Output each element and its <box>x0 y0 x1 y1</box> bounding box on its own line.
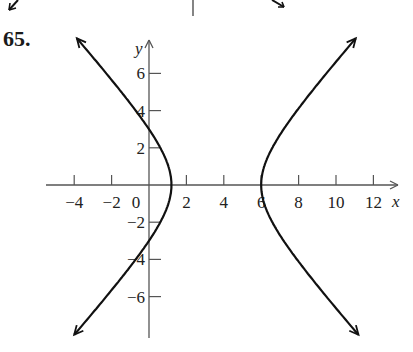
x-tick-label: −4 <box>65 193 84 212</box>
y-axis-label: y <box>133 39 143 58</box>
axes: xy <box>46 39 400 338</box>
x-tick-label: 8 <box>294 193 303 212</box>
x-tick-label: 12 <box>365 193 382 212</box>
x-tick-label: −2 <box>103 193 121 212</box>
left-branch <box>74 38 171 335</box>
x-tick-label: 0 <box>132 193 141 212</box>
right-branch <box>261 38 358 335</box>
y-tick-label: −2 <box>127 213 145 232</box>
x-tick-label: 4 <box>220 193 229 212</box>
hyperbola-plot: xy −4−2024681012−6−4−2246 <box>0 0 413 352</box>
x-axis-label: x <box>391 192 400 211</box>
y-tick-label: 2 <box>137 139 146 158</box>
hyperbola-curve <box>74 38 358 335</box>
y-tick-label: 6 <box>137 64 146 83</box>
x-tick-label: 10 <box>328 193 345 212</box>
y-tick-label: −6 <box>127 288 145 307</box>
x-tick-label: 2 <box>182 193 191 212</box>
